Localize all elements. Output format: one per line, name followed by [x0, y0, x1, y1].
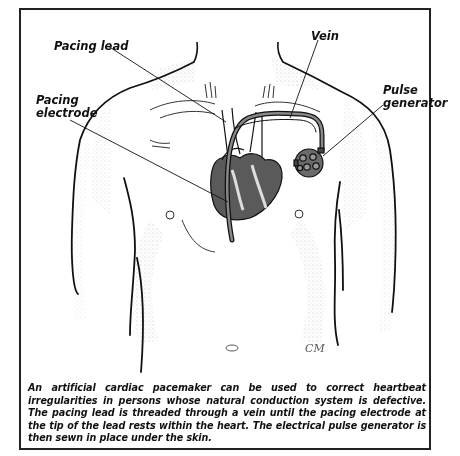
label-vein: Vein — [311, 30, 339, 43]
label-pacing-electrode-line2: electrode — [36, 107, 97, 120]
label-pulse-generator-line2: generator — [383, 97, 448, 110]
navel — [226, 345, 238, 351]
neck-outline — [194, 42, 283, 62]
label-pulse-generator: Pulse generator — [383, 84, 448, 110]
artist-signature: CM — [305, 342, 325, 355]
heart — [211, 148, 282, 219]
pulse-generator-device — [294, 148, 324, 177]
label-pacing-lead: Pacing lead — [54, 40, 128, 53]
figure-caption: An artificial cardiac pacemaker can be u… — [28, 382, 426, 445]
label-pacing-electrode: Pacing electrode — [36, 94, 97, 120]
